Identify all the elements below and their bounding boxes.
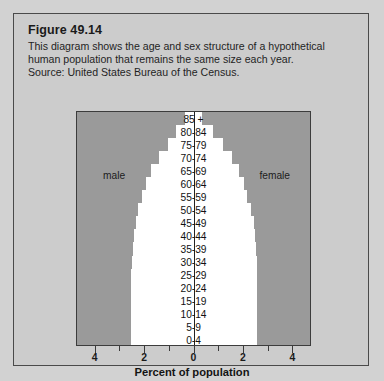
bar-male bbox=[151, 164, 194, 177]
bar-male bbox=[168, 138, 194, 151]
bar-male bbox=[142, 190, 194, 203]
series-label-male: male bbox=[103, 170, 125, 181]
x-axis-tick bbox=[218, 346, 219, 351]
bar-male bbox=[159, 151, 193, 164]
x-axis-tick bbox=[169, 346, 170, 351]
bar-female bbox=[194, 112, 203, 125]
center-axis-line bbox=[194, 112, 195, 345]
x-axis-tick-label: 4 bbox=[92, 352, 98, 363]
bar-male bbox=[132, 256, 194, 269]
bar-female bbox=[194, 216, 254, 229]
bar-male bbox=[131, 282, 194, 295]
figure-caption-line-2: human population that remains the same s… bbox=[28, 53, 358, 66]
bar-male bbox=[131, 334, 194, 346]
x-axis-tick bbox=[119, 346, 120, 351]
bar-male bbox=[136, 216, 194, 229]
bar-male bbox=[176, 125, 193, 138]
bar-male bbox=[134, 229, 193, 242]
x-axis-tick-label: 2 bbox=[240, 352, 246, 363]
series-label-female: female bbox=[259, 170, 290, 181]
bar-female bbox=[194, 308, 258, 321]
bar-female bbox=[194, 282, 258, 295]
x-axis-tick-labels: 42024 bbox=[76, 352, 311, 366]
bar-female bbox=[194, 334, 258, 346]
bar-male bbox=[131, 269, 194, 282]
bar-female bbox=[194, 242, 257, 255]
bar-female bbox=[194, 269, 258, 282]
x-axis-tick-label: 4 bbox=[290, 352, 296, 363]
bar-female bbox=[194, 164, 239, 177]
bar-female bbox=[194, 125, 214, 138]
x-axis-tick-label: 0 bbox=[191, 352, 197, 363]
bar-male bbox=[131, 308, 194, 321]
x-axis-tick bbox=[268, 346, 269, 351]
bar-male bbox=[131, 321, 194, 334]
population-pyramid-plot: 85 +80-8475-7970-7465-6960-6455-5950-544… bbox=[76, 111, 311, 346]
figure-header: Figure 49.14 This diagram shows the age … bbox=[28, 23, 358, 80]
bar-male bbox=[138, 203, 193, 216]
figure-panel: Figure 49.14 This diagram shows the age … bbox=[13, 13, 369, 366]
bar-female bbox=[194, 256, 257, 269]
bar-female bbox=[194, 190, 248, 203]
bar-male bbox=[131, 295, 194, 308]
bar-female bbox=[194, 138, 223, 151]
bar-female bbox=[194, 295, 258, 308]
bar-female bbox=[194, 321, 258, 334]
bar-male bbox=[146, 177, 194, 190]
x-axis-title: Percent of population bbox=[14, 366, 370, 378]
bar-male bbox=[185, 112, 194, 125]
figure-caption-line-3: Source: United States Bureau of the Cens… bbox=[28, 66, 358, 79]
figure-title: Figure 49.14 bbox=[28, 23, 358, 37]
bar-male bbox=[133, 242, 194, 255]
bar-female bbox=[194, 177, 244, 190]
bar-female bbox=[194, 203, 252, 216]
figure-caption-line-1: This diagram shows the age and sex struc… bbox=[28, 40, 358, 53]
bar-female bbox=[194, 229, 255, 242]
bar-female bbox=[194, 151, 232, 164]
x-axis-tick-label: 2 bbox=[141, 352, 147, 363]
